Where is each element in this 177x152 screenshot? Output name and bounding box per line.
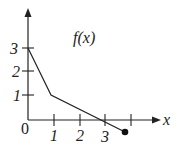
y-axis-arrow-icon [25, 8, 32, 17]
x-label-3: 3 [100, 128, 109, 145]
y-label-1: 1 [13, 87, 21, 104]
x-axis-label: x [162, 111, 170, 128]
y-label-3: 3 [9, 40, 18, 57]
x-label-1: 1 [50, 127, 58, 144]
endpoint-dot-icon [122, 129, 129, 136]
x-label-2: 2 [76, 127, 84, 144]
y-label-2: 2 [12, 63, 20, 80]
function-graph: f(x) x 0 1 2 3 3 2 1 [0, 0, 177, 152]
origin-label: 0 [21, 120, 29, 137]
function-label: f(x) [73, 29, 95, 47]
x-axis-arrow-icon [152, 117, 161, 124]
